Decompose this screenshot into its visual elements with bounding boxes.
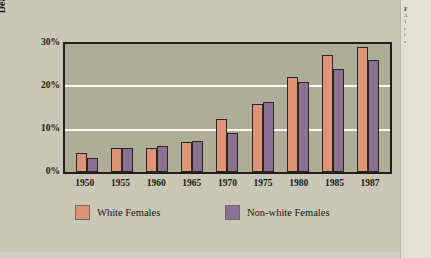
x-tick-1987: 1987 [358, 178, 382, 194]
x-tick-1975: 1975 [251, 178, 275, 194]
legend-entry-nonwhite-females: Non-white Females [225, 205, 330, 220]
y-tick-30: 30% [26, 37, 60, 47]
bar-nonwhite-females-1987 [368, 60, 379, 172]
x-tick-1955: 1955 [108, 178, 132, 194]
caption-text-fragment: FA1tls [400, 0, 431, 258]
bar-white-females-1965 [181, 142, 192, 172]
y-tick-10: 10% [26, 123, 60, 133]
bar-white-females-1960 [146, 148, 157, 172]
x-tick-1960: 1960 [144, 178, 168, 194]
bar-group [181, 44, 203, 172]
y-tick-0: 0% [26, 166, 60, 176]
bar-white-females-1970 [216, 119, 227, 172]
y-axis-ticks: 30% 20% 10% 0% [22, 0, 60, 252]
bar-white-females-1980 [287, 77, 298, 172]
bar-white-females-1975 [252, 104, 263, 172]
bar-nonwhite-females-1985 [333, 69, 344, 172]
bar-group [252, 44, 274, 172]
bar-group [287, 44, 309, 172]
bar-group [322, 44, 344, 172]
bar-groups [65, 44, 390, 172]
legend-swatch-nonwhite-females [225, 205, 240, 220]
bar-nonwhite-females-1970 [227, 133, 238, 172]
legend: White Females Non-white Females [63, 205, 392, 220]
bar-group [76, 44, 98, 172]
bar-white-females-1950 [76, 153, 87, 172]
bar-nonwhite-females-1980 [298, 82, 309, 172]
y-axis-title: Deaths per 100,000 Women [0, 0, 7, 30]
x-tick-1970: 1970 [215, 178, 239, 194]
x-tick-1950: 1950 [73, 178, 97, 194]
bar-nonwhite-females-1975 [263, 102, 274, 172]
bar-group [146, 44, 168, 172]
bar-nonwhite-females-1960 [157, 146, 168, 172]
bar-group [216, 44, 238, 172]
x-axis-ticks: 195019551960196519701975198019851987 [63, 178, 392, 194]
legend-entry-white-females: White Females [75, 205, 225, 220]
bar-group [111, 44, 133, 172]
bar-group [357, 44, 379, 172]
legend-swatch-white-females [75, 205, 90, 220]
caption-line: s [404, 39, 431, 46]
bar-nonwhite-females-1950 [87, 158, 98, 172]
plot-area [63, 42, 392, 174]
bar-white-females-1985 [322, 55, 333, 172]
bar-white-females-1987 [357, 47, 368, 172]
legend-label-white-females: White Females [97, 207, 160, 218]
y-tick-20: 20% [26, 80, 60, 90]
x-tick-1980: 1980 [287, 178, 311, 194]
bar-nonwhite-females-1955 [122, 148, 133, 172]
x-tick-1965: 1965 [180, 178, 204, 194]
bar-white-females-1955 [111, 148, 122, 172]
legend-label-nonwhite-females: Non-white Females [247, 207, 330, 218]
x-tick-1985: 1985 [322, 178, 346, 194]
bar-nonwhite-females-1965 [192, 141, 203, 172]
